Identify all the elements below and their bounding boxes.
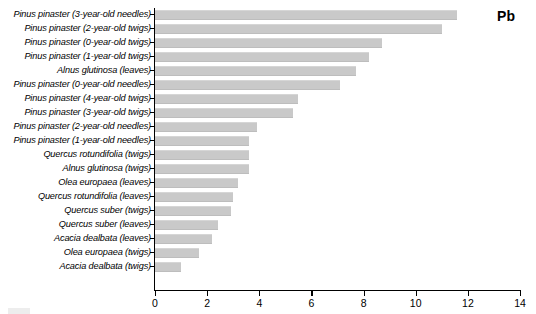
x-axis-tick-label: 12 [453, 297, 483, 309]
x-axis-tick-label: 10 [401, 297, 431, 309]
bar-category-label: Alnus glutinosa (twigs) [63, 162, 151, 176]
x-axis-tick [155, 291, 156, 296]
bar [155, 122, 257, 132]
bar-row: Quercus suber (leaves) [0, 218, 536, 232]
x-axis-tick [311, 291, 312, 296]
bar-track [155, 24, 442, 34]
series-title-pb: Pb [497, 8, 515, 24]
bar-row: Pinus pinaster (2-year-old twigs) [0, 22, 536, 36]
bar [155, 10, 457, 20]
bar-track [155, 234, 212, 244]
bar-category-label: Olea europaea (leaves) [58, 176, 151, 190]
bar-category-label: Pinus pinaster (0-year-old twigs) [24, 36, 151, 50]
bar-track [155, 178, 238, 188]
bar [155, 220, 218, 230]
bar-row: Pinus pinaster (4-year-old twigs) [0, 92, 536, 106]
x-axis-tick-label: 0 [140, 297, 170, 309]
bar-row: Olea europaea (leaves) [0, 176, 536, 190]
bar [155, 66, 356, 76]
x-axis-tick [207, 291, 208, 296]
bar-track [155, 108, 293, 118]
bar-category-label: Pinus pinaster (4-year-old twigs) [24, 92, 151, 106]
bar-track [155, 66, 356, 76]
x-axis-tick [468, 291, 469, 296]
bar [155, 150, 249, 160]
bar-track [155, 150, 249, 160]
scan-edge-artifact [8, 308, 30, 314]
x-axis-tick-label: 4 [244, 297, 274, 309]
bar-track [155, 164, 249, 174]
bar-track [155, 10, 457, 20]
bar-track [155, 38, 382, 48]
bar-track [155, 52, 369, 62]
bar-row: Quercus suber (twigs) [0, 204, 536, 218]
bar-category-label: Pinus pinaster (1-year-old twigs) [24, 50, 151, 64]
x-axis-tick-label: 2 [192, 297, 222, 309]
bar-category-label: Acacia dealbata (leaves) [54, 232, 151, 246]
bar-track [155, 122, 257, 132]
bar-category-label: Quercus suber (twigs) [64, 204, 151, 218]
bar [155, 192, 233, 202]
bar-row: Acacia dealbata (twigs) [0, 260, 536, 274]
y-axis-line [154, 8, 155, 291]
bar-row: Acacia dealbata (leaves) [0, 232, 536, 246]
x-axis-tick [259, 291, 260, 296]
bar [155, 80, 340, 90]
bar-row: Olea europaea (twigs) [0, 246, 536, 260]
bar-category-label: Olea europaea (twigs) [64, 246, 151, 260]
bar-category-label: Quercus rotundifolia (twigs) [43, 148, 151, 162]
bar-category-label: Pinus pinaster (2-year-old needles) [13, 120, 151, 134]
bar-row: Pinus pinaster (1-year-old needles) [0, 134, 536, 148]
bar-row: Pinus pinaster (1-year-old twigs) [0, 50, 536, 64]
bar-track [155, 192, 233, 202]
bar-track [155, 248, 199, 258]
bar-row: Pinus pinaster (0-year-old needles) [0, 78, 536, 92]
bar-row: Quercus rotundifolia (leaves) [0, 190, 536, 204]
bar [155, 206, 231, 216]
bar-row: Pinus pinaster (3-year-old needles) [0, 8, 536, 22]
x-axis-tick-label: 8 [349, 297, 379, 309]
x-axis-tick-label: 14 [505, 297, 535, 309]
bar [155, 38, 382, 48]
bar [155, 248, 199, 258]
bar [155, 136, 249, 146]
bar-row: Alnus glutinosa (leaves) [0, 64, 536, 78]
bar-category-label: Pinus pinaster (0-year-old needles) [13, 78, 151, 92]
bar-category-label: Pinus pinaster (3-year-old needles) [13, 8, 151, 22]
bar-track [155, 262, 181, 272]
bar-category-label: Quercus suber (leaves) [59, 218, 151, 232]
bar [155, 94, 298, 104]
bar [155, 178, 238, 188]
bar-category-label: Pinus pinaster (3-year-old twigs) [24, 106, 151, 120]
bar [155, 234, 212, 244]
bar-row: Quercus rotundifolia (twigs) [0, 148, 536, 162]
pb-bar-chart-figure: Pinus pinaster (3-year-old needles)Pinus… [0, 0, 536, 314]
x-axis-tick [364, 291, 365, 296]
x-axis-tick-label: 6 [296, 297, 326, 309]
bar-category-label: Alnus glutinosa (leaves) [57, 64, 151, 78]
bar-category-label: Acacia dealbata (twigs) [59, 260, 151, 274]
bar [155, 164, 249, 174]
bar-track [155, 94, 298, 104]
bar-track [155, 206, 231, 216]
bar-row: Pinus pinaster (3-year-old twigs) [0, 106, 536, 120]
x-axis-tick [416, 291, 417, 296]
bar-row: Pinus pinaster (2-year-old needles) [0, 120, 536, 134]
bar [155, 262, 181, 272]
x-axis-tick [520, 291, 521, 296]
bar-category-label: Pinus pinaster (2-year-old twigs) [24, 22, 151, 36]
bar-track [155, 80, 340, 90]
plot-area: Pinus pinaster (3-year-old needles)Pinus… [0, 0, 536, 314]
bar-rows-container: Pinus pinaster (3-year-old needles)Pinus… [0, 8, 536, 274]
bar-row: Alnus glutinosa (twigs) [0, 162, 536, 176]
bar [155, 52, 369, 62]
x-axis-line [154, 290, 521, 291]
bar-category-label: Quercus rotundifolia (leaves) [38, 190, 151, 204]
bar-track [155, 136, 249, 146]
bar-category-label: Pinus pinaster (1-year-old needles) [13, 134, 151, 148]
bar [155, 24, 442, 34]
bar-track [155, 220, 218, 230]
bar [155, 108, 293, 118]
bar-row: Pinus pinaster (0-year-old twigs) [0, 36, 536, 50]
